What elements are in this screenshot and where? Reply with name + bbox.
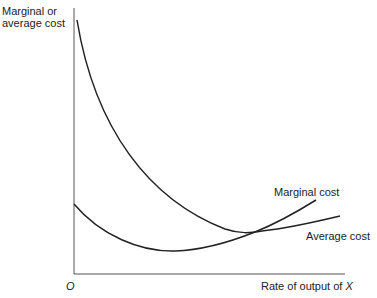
marginal-cost-label: Marginal cost [274,186,339,198]
y-axis-label-line1: Marginal or [2,5,57,17]
x-axis-variable: X [345,280,352,292]
average-cost-label: Average cost [306,230,370,242]
marginal-cost-curve [74,200,316,251]
x-axis-label-text: Rate of output of [261,280,345,292]
x-axis-label: Rate of output of X [261,280,353,292]
chart-canvas [0,0,377,298]
average-cost-curve [77,20,340,233]
origin-label: O [66,280,75,292]
y-axis-label-line2: average cost [2,17,65,29]
